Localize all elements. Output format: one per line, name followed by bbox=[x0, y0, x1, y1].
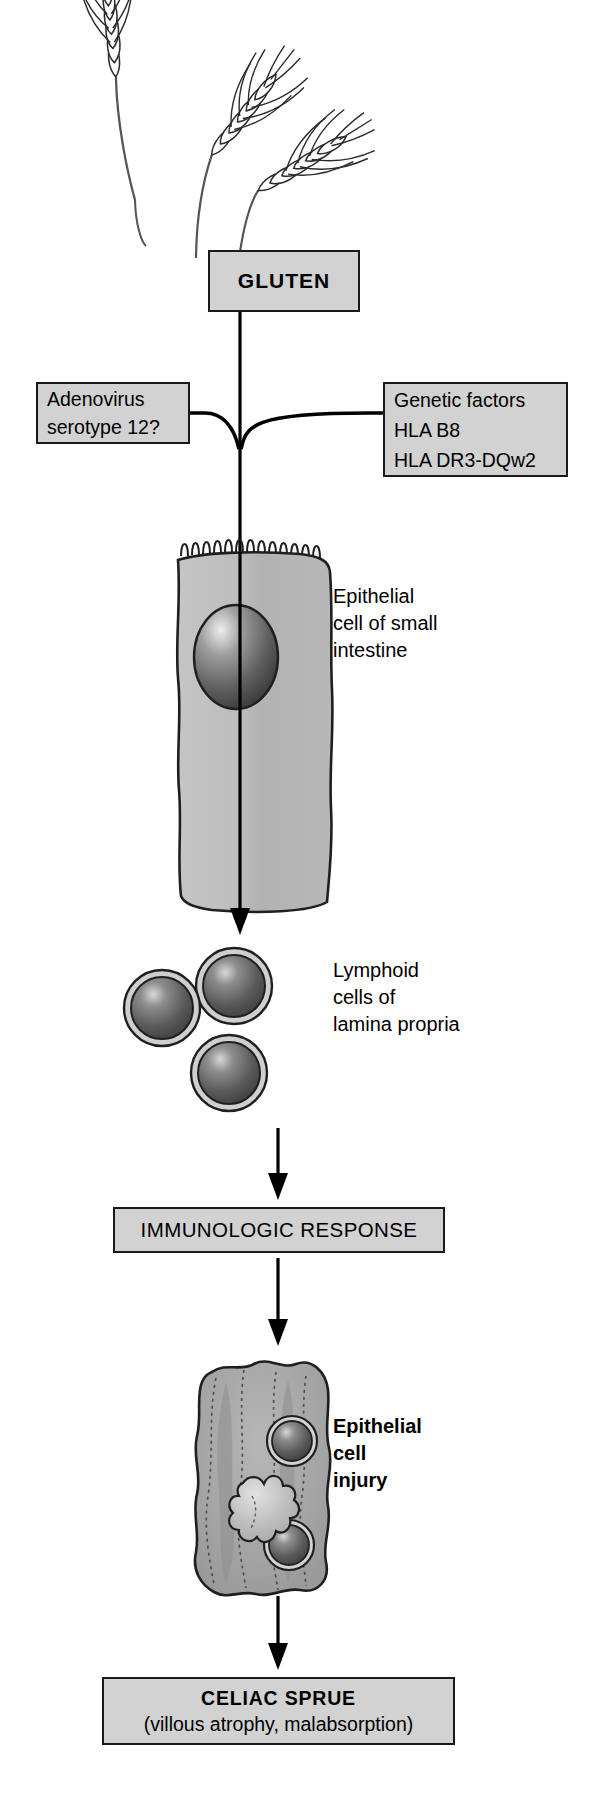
label-lymphoid-cells: Lymphoid cells of lamina propria bbox=[333, 957, 460, 1038]
genetic-line3: HLA DR3-DQw2 bbox=[394, 445, 566, 475]
box-adenovirus: Adenovirus serotype 12? bbox=[36, 382, 190, 444]
flow-curve-adenovirus bbox=[190, 413, 239, 449]
box-celiac-sprue: CELIAC SPRUE (villous atrophy, malabsorp… bbox=[102, 1677, 455, 1745]
flow-arrow-to-injury bbox=[268, 1258, 288, 1346]
wheat-stalk-middle bbox=[166, 20, 325, 275]
adenovirus-line2: serotype 12? bbox=[47, 413, 188, 441]
flow-curve-genetic bbox=[241, 413, 383, 449]
celiac-line2: (villous atrophy, malabsorption) bbox=[144, 1711, 414, 1737]
lymphoid-cell bbox=[196, 948, 272, 1024]
celiac-line1: CELIAC SPRUE bbox=[201, 1685, 356, 1711]
wheat-stalk-left bbox=[73, 0, 165, 250]
flow-arrow-to-immunologic bbox=[268, 1128, 288, 1200]
genetic-line2: HLA B8 bbox=[394, 415, 566, 445]
immunologic-label: IMMUNOLOGIC RESPONSE bbox=[141, 1218, 418, 1242]
label-epithelial-cell-injury: Epithelial cell injury bbox=[333, 1413, 422, 1494]
nucleus-icon bbox=[194, 605, 278, 709]
injured-epithelial-cell-illustration bbox=[195, 1361, 330, 1595]
gluten-label: GLUTEN bbox=[238, 269, 330, 293]
lymphoid-cells-illustration bbox=[124, 948, 272, 1111]
intraepithelial-lymphocyte bbox=[267, 1416, 317, 1466]
box-genetic-factors: Genetic factors HLA B8 HLA DR3-DQw2 bbox=[383, 382, 568, 477]
box-immunologic-response: IMMUNOLOGIC RESPONSE bbox=[113, 1207, 445, 1253]
adenovirus-line1: Adenovirus bbox=[47, 385, 188, 413]
flow-arrow-to-celiac bbox=[268, 1596, 288, 1670]
genetic-line1: Genetic factors bbox=[394, 385, 566, 415]
lymphoid-cell bbox=[124, 970, 200, 1046]
epithelial-cell-illustration bbox=[177, 540, 332, 912]
box-gluten: GLUTEN bbox=[208, 250, 360, 312]
diagram-canvas: GLUTEN Adenovirus serotype 12? Genetic f… bbox=[0, 0, 597, 1818]
arrowhead-to-lymphoid bbox=[230, 908, 250, 935]
lymphoid-cell bbox=[191, 1035, 267, 1111]
label-epithelial-cell: Epithelial cell of small intestine bbox=[333, 583, 437, 664]
